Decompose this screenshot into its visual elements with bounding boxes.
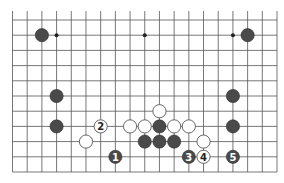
black-stone	[241, 29, 254, 42]
move-number: 1	[112, 152, 119, 163]
white-stone	[123, 120, 136, 133]
black-stone	[35, 29, 48, 42]
white-stone	[138, 120, 151, 133]
black-stone	[138, 135, 151, 148]
hoshi-point	[143, 33, 147, 37]
white-stone	[153, 105, 166, 118]
black-stone-move-3: 3	[182, 150, 195, 163]
white-stone-move-2: 2	[94, 120, 107, 133]
move-number: 2	[97, 121, 104, 132]
white-stone	[168, 120, 181, 133]
black-stone	[50, 89, 63, 102]
black-stone	[50, 120, 63, 133]
hoshi-point	[231, 33, 235, 37]
black-stone	[168, 135, 181, 148]
go-board-diagram: 21345	[0, 0, 284, 183]
black-stone-move-5: 5	[226, 150, 239, 163]
move-number: 3	[185, 152, 192, 163]
move-number: 4	[200, 152, 207, 163]
white-stone	[182, 120, 195, 133]
hoshi-point	[55, 33, 59, 37]
white-stone	[197, 135, 210, 148]
black-stone	[153, 135, 166, 148]
black-stone-move-1: 1	[109, 150, 122, 163]
move-number: 5	[229, 152, 236, 163]
white-stone-move-4: 4	[197, 150, 210, 163]
black-stone	[226, 89, 239, 102]
white-stone	[79, 135, 92, 148]
black-stone	[153, 120, 166, 133]
black-stone	[226, 120, 239, 133]
